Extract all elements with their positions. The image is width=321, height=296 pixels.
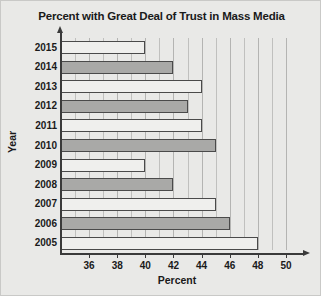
bar-2008 — [61, 178, 173, 191]
bar-row — [61, 38, 293, 58]
x-tick-42 — [173, 254, 174, 258]
y-tick-label-2010: 2010 — [19, 140, 57, 151]
x-tick-label-40: 40 — [130, 260, 160, 271]
x-tick-38 — [117, 254, 118, 258]
bar-2006 — [61, 217, 230, 230]
bar-row — [61, 116, 293, 136]
y-tick-label-2013: 2013 — [19, 81, 57, 92]
bar-row — [61, 97, 293, 117]
chart-title: Percent with Great Deal of Trust in Mass… — [1, 10, 321, 22]
bar-2013 — [61, 80, 202, 93]
bar-row — [61, 77, 293, 97]
chart-figure: Percent with Great Deal of Trust in Mass… — [0, 0, 321, 296]
bar-2005 — [61, 237, 258, 250]
y-axis-arrow-icon — [57, 26, 63, 33]
x-tick-36 — [89, 254, 90, 258]
bar-row — [61, 58, 293, 78]
y-tick-label-2005: 2005 — [19, 237, 57, 248]
x-tick-label-38: 38 — [102, 260, 132, 271]
y-tick-label-2011: 2011 — [19, 120, 57, 131]
x-tick-label-48: 48 — [243, 260, 273, 271]
x-tick-label-44: 44 — [187, 260, 217, 271]
y-tick-label-2015: 2015 — [19, 42, 57, 53]
x-tick-40 — [145, 254, 146, 258]
bar-row — [61, 214, 293, 234]
plot-area — [61, 38, 293, 250]
x-axis-arrow-icon — [303, 250, 310, 256]
x-tick-50 — [286, 254, 287, 258]
bar-2011 — [61, 119, 202, 132]
y-tick-label-2009: 2009 — [19, 159, 57, 170]
y-tick-label-2007: 2007 — [19, 198, 57, 209]
bar-row — [61, 136, 293, 156]
bar-2007 — [61, 198, 216, 211]
bar-2010 — [61, 139, 216, 152]
x-tick-48 — [258, 254, 259, 258]
x-axis-title: Percent — [61, 274, 293, 286]
y-tick-label-2014: 2014 — [19, 61, 57, 72]
y-tick-label-2006: 2006 — [19, 218, 57, 229]
x-tick-label-42: 42 — [158, 260, 188, 271]
bar-2014 — [61, 61, 173, 74]
y-tick-label-2008: 2008 — [19, 179, 57, 190]
y-tick-label-2012: 2012 — [19, 100, 57, 111]
bar-2015 — [61, 41, 145, 54]
bar-2012 — [61, 100, 188, 113]
bar-row — [61, 175, 293, 195]
x-tick-44 — [202, 254, 203, 258]
x-tick-label-36: 36 — [74, 260, 104, 271]
x-axis-line — [60, 253, 304, 255]
y-axis-title: Year — [6, 117, 18, 167]
x-tick-label-50: 50 — [271, 260, 301, 271]
bar-row — [61, 155, 293, 175]
y-axis-line — [60, 32, 62, 254]
bar-row — [61, 194, 293, 214]
bar-2009 — [61, 159, 145, 172]
x-tick-label-46: 46 — [215, 260, 245, 271]
x-tick-46 — [230, 254, 231, 258]
bar-row — [61, 233, 293, 253]
